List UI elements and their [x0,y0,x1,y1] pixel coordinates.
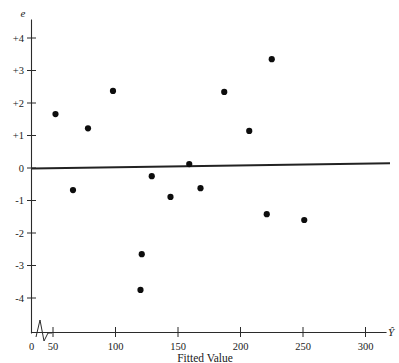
y-tick-label-0: 0 [19,163,24,174]
data-point [269,56,275,62]
data-point [139,251,145,257]
y-tick-label-neg3: -3 [15,260,24,271]
x-tick-label-300: 300 [358,341,374,352]
y-tick-label-3: +3 [13,65,24,76]
y-tick-label-1: +1 [13,130,24,141]
y-tick-label-neg2: -2 [15,228,24,239]
data-point [301,217,307,223]
x-tick-label-group: 0 50 100 150 200 250 300 [29,341,374,352]
data-point [70,187,76,193]
x-tick-label-250: 250 [295,341,311,352]
y-tick-label-neg1: -1 [15,195,24,206]
data-point [197,185,203,191]
data-point [221,89,227,95]
x-axis-caption: Fitted Value [177,352,233,363]
y-tick-label-4: +4 [13,33,25,44]
residual-scatter-plot: +4 +3 +2 +1 0 -1 -2 -3 -4 0 50 100 150 2… [0,0,399,363]
data-point [264,211,270,217]
x-tick-label-150: 150 [170,341,186,352]
x-axis-symbol-label: Ŷ [388,326,396,338]
zero-reference-line [32,163,390,168]
y-tick-label-neg4: -4 [15,293,24,304]
data-point [186,161,192,167]
x-tick-label-200: 200 [233,341,249,352]
x-tick-label-50: 50 [48,341,59,352]
data-point [246,128,252,134]
residual-plot: +4 +3 +2 +1 0 -1 -2 -3 -4 0 50 100 150 2… [0,0,399,363]
y-axis-symbol-label: e [21,7,26,19]
data-point [85,125,91,131]
x-axis-break-icon [36,320,52,341]
x-tick-label-0: 0 [29,341,34,352]
data-point-group [52,56,307,293]
data-point [52,111,58,117]
x-tick-label-100: 100 [108,341,124,352]
data-point [167,194,173,200]
data-point [110,88,116,94]
data-point [137,287,143,293]
y-tick-label-2: +2 [13,98,24,109]
data-point [149,173,155,179]
y-tick-label-group: +4 +3 +2 +1 0 -1 -2 -3 -4 [13,33,25,304]
